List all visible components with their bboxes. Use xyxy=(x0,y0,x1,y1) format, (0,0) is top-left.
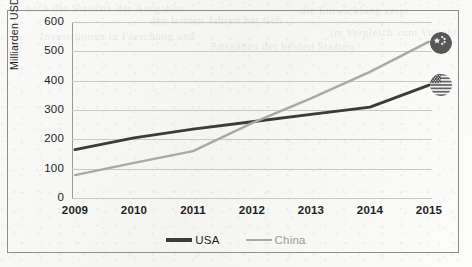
series-line-china xyxy=(75,42,429,175)
legend-label: China xyxy=(275,234,306,246)
series-lines xyxy=(72,22,432,198)
chart-legend: USAChina xyxy=(0,234,472,246)
gridline-0 xyxy=(72,198,432,199)
usa-flag-badge-icon xyxy=(430,74,452,96)
y-axis-title: Milliarden USD xyxy=(8,0,20,70)
legend-label: USA xyxy=(195,234,219,246)
scanned-page: nach der Statistik der Ausgabenden letzt… xyxy=(0,0,472,267)
china-flag-badge-icon xyxy=(430,32,452,54)
legend-swatch-china-icon xyxy=(246,239,272,242)
series-line-usa xyxy=(75,85,429,150)
legend-swatch-usa-icon xyxy=(166,238,192,241)
legend-entry-china[interactable]: China xyxy=(246,234,306,246)
plot-area xyxy=(72,22,432,198)
legend-entry-usa[interactable]: USA xyxy=(166,234,219,246)
